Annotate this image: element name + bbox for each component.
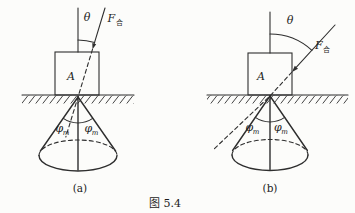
- ground-hatching: [207, 96, 348, 104]
- block-b: [248, 53, 292, 95]
- force-label: F: [107, 12, 116, 25]
- subfigure-b: θ F 合 A φ m φ m (b): [207, 12, 348, 194]
- block-a: [55, 52, 99, 95]
- subfigure-a: θ F 合 A φ m φ m (a): [22, 8, 134, 194]
- friction-cone: [232, 96, 308, 170]
- figure-5-4: θ F 合 A φ m φ m (a) θ: [0, 0, 355, 213]
- theta-angle-arc: [78, 40, 95, 43]
- figure-caption: 图 5.4: [149, 197, 181, 210]
- phi-left-subscript: m: [253, 128, 260, 136]
- force-label-subscript: 合: [323, 45, 330, 54]
- phi-right-subscript: m: [92, 129, 99, 137]
- phi-left-subscript: m: [63, 129, 70, 137]
- theta-label: θ: [287, 14, 294, 27]
- phi-right-subscript: m: [281, 128, 288, 136]
- force-vector-line: [94, 8, 105, 44]
- theta-label: θ: [84, 11, 91, 24]
- theta-angle-arc: [270, 34, 312, 50]
- friction-cone-diagram: θ F 合 A φ m φ m (a) θ: [0, 0, 355, 213]
- force-label: F: [314, 39, 323, 52]
- friction-cone: [39, 97, 117, 171]
- block-label: A: [66, 70, 75, 83]
- subfigure-b-caption: (b): [263, 182, 278, 194]
- block-label: A: [256, 70, 265, 83]
- force-arrowhead-icon: [92, 43, 96, 49]
- subfigure-a-caption: (a): [73, 182, 87, 194]
- force-label-subscript: 合: [116, 18, 123, 27]
